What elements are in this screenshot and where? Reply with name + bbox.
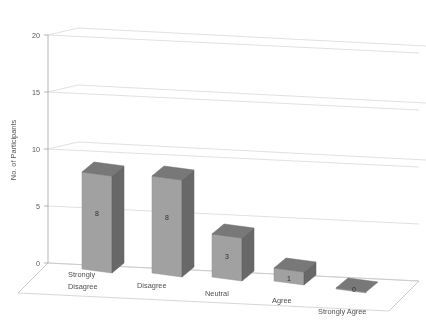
gridline-15 [48,92,419,110]
y-tick-label-5: 5 [36,202,40,211]
y-tick-label-10: 10 [32,145,40,154]
floor-depth-line-2 [389,281,419,311]
bar-value-label: 0 [352,286,356,293]
bar-value-label: 3 [225,253,229,260]
bar-value-label: 8 [165,214,169,221]
wall-top-depth-edge [48,28,426,46]
y-tick-label-0: 0 [36,259,40,268]
bar-side-face [112,166,124,273]
y-axis-group: 20 15 10 5 0 [32,31,48,268]
bar-disagree: 8 [152,166,194,277]
wall-10-depth-edge [48,142,426,160]
category-label-strongly-disagree-line2: Disagree [68,282,98,291]
category-label-neutral: Neutral [205,289,229,298]
gridline-20 [48,35,419,53]
y-axis-title: No. of Participants [9,120,18,181]
bar-neutral: 3 [212,224,254,281]
bar-value-label: 8 [95,210,99,217]
y-tick-label-15: 15 [32,88,40,97]
category-label-strongly-disagree: Strongly [68,270,95,279]
bar-side-face [182,170,194,277]
bar-value-label: 1 [287,275,291,282]
chart-container: 20 15 10 5 0 No. of Participants 8 8 [0,0,426,326]
bar-chart-3d: 20 15 10 5 0 No. of Participants 8 8 [0,0,426,326]
bar-front-face [82,172,112,273]
category-label-disagree: Disagree [137,281,167,290]
bar-strongly-disagree: 8 [82,162,124,273]
category-label-agree: Agree [272,296,292,305]
bar-front-face [152,176,182,277]
y-tick-label-20: 20 [32,31,40,40]
wall-15-depth-edge [48,85,426,103]
wall-top-edge-group [48,28,426,160]
bar-strongly-agree: 0 [336,278,378,293]
category-label-strongly-agree: Strongly Agree [318,307,366,316]
bar-agree: 1 [274,258,316,285]
floor-depth-line-1 [18,263,48,293]
